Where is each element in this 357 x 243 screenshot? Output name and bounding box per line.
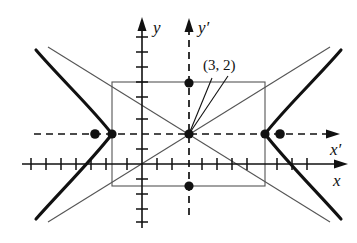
vertex-right <box>260 129 269 138</box>
center-point <box>184 129 193 138</box>
x-axis-arrowhead <box>334 160 348 169</box>
y-prime-axis-label: y′ <box>196 18 210 37</box>
hyperbola-figure: y y′ x′ x (3, 2) <box>0 0 357 243</box>
vertex-left <box>107 129 116 138</box>
figure-canvas: y y′ x′ x (3, 2) <box>0 0 357 243</box>
x-axis <box>22 158 348 170</box>
center-point-label: (3, 2) <box>203 57 236 74</box>
center-leader-line-secondary <box>189 76 228 134</box>
x-prime-axis-label: x′ <box>329 140 342 159</box>
focus-right <box>275 129 285 139</box>
y-axis <box>136 17 148 228</box>
y-axis-arrowhead <box>138 17 147 31</box>
y-prime-axis-arrowhead <box>185 18 194 32</box>
center-leader-line <box>189 78 212 134</box>
co-vertex-top <box>184 78 193 87</box>
x-prime-axis-arrowhead <box>326 130 340 139</box>
y-axis-label: y <box>151 18 161 37</box>
co-vertex-bottom <box>184 181 193 190</box>
x-axis-label: x <box>332 171 341 190</box>
focus-left <box>90 129 100 139</box>
